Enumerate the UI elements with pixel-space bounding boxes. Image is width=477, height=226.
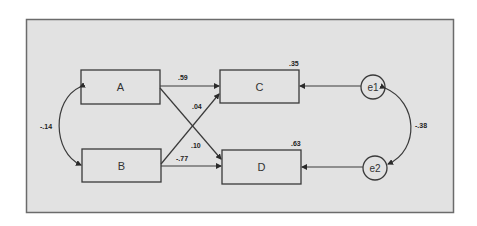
diagram-svg: A B C .35 D .63 e1 e2: [0, 0, 477, 226]
node-D-r-squared: .63: [291, 140, 301, 147]
node-B-label: B: [118, 160, 125, 172]
node-D-label: D: [258, 161, 266, 173]
node-C-r-squared: .35: [289, 60, 299, 67]
node-A-label: A: [117, 81, 125, 93]
coef-B-to-D: -.77: [176, 155, 188, 162]
error-e1: e1: [361, 75, 385, 99]
node-C-label: C: [256, 81, 264, 93]
node-B: B: [82, 149, 161, 182]
error-e2: e2: [363, 156, 387, 180]
coef-covariance-e1-e2: -.38: [415, 122, 427, 129]
error-e1-label: e1: [367, 82, 379, 93]
coef-A-to-C: .59: [178, 74, 188, 81]
coef-covariance-A-B: -.14: [40, 123, 52, 130]
node-A: A: [81, 70, 160, 104]
error-e2-label: e2: [369, 163, 381, 174]
coef-B-to-C: .04: [192, 103, 202, 110]
path-diagram: A B C .35 D .63 e1 e2: [0, 0, 477, 226]
coef-A-to-D: .10: [191, 142, 201, 149]
